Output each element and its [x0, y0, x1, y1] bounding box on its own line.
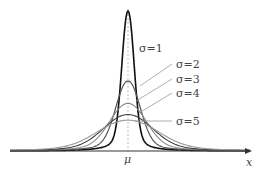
annotation-label: σ=1 — [139, 42, 163, 55]
annotation-label: σ=2 — [176, 58, 200, 71]
annotation-label: σ=3 — [176, 73, 200, 86]
x-axis-label: x — [246, 156, 253, 169]
annotation-leader-line — [136, 79, 172, 101]
annotation-label: σ=5 — [176, 115, 200, 128]
mu-label: μ — [124, 153, 131, 166]
curve-sigma-5 — [10, 120, 250, 150]
annotation-leader-line — [140, 64, 172, 86]
curve-sigma-3 — [10, 103, 250, 150]
curves — [10, 11, 250, 151]
x-axis-arrow-icon — [245, 148, 252, 154]
curve-sigma-1 — [10, 11, 250, 151]
gaussian-chart: σ=1σ=2σ=3σ=4σ=5 μ x — [0, 0, 262, 175]
annotation-label: σ=4 — [176, 87, 200, 100]
curve-sigma-2 — [10, 81, 250, 151]
annotations: σ=1σ=2σ=3σ=4σ=5 — [135, 42, 200, 128]
